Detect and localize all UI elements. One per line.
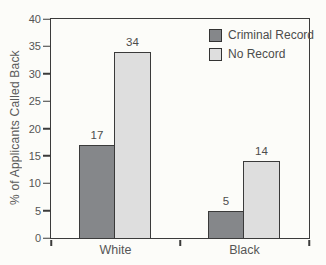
- bar: 34: [114, 52, 151, 238]
- y-tick-label: 35: [15, 39, 41, 53]
- y-axis-tick: [43, 46, 51, 48]
- bar-value-label: 5: [209, 195, 244, 207]
- y-axis-tick: [43, 100, 51, 102]
- bar-value-label: 17: [80, 129, 115, 141]
- x-axis-tick: [308, 240, 310, 246]
- legend-label: No Record: [228, 47, 285, 61]
- bar: 14: [243, 161, 280, 238]
- bar-value-label: 14: [244, 145, 279, 157]
- y-tick-label: 20: [15, 122, 41, 136]
- bar-value-label: 34: [115, 36, 150, 48]
- y-axis-tick: [43, 128, 51, 130]
- x-axis-tick: [50, 240, 52, 246]
- legend-item: No Record: [209, 47, 314, 61]
- y-axis-tick: [43, 155, 51, 157]
- y-axis-tick: [43, 210, 51, 212]
- y-tick-label: 10: [15, 176, 41, 190]
- y-tick-label: 15: [15, 149, 41, 163]
- x-category-label: White: [100, 243, 132, 257]
- legend-item: Criminal Record: [209, 28, 314, 42]
- y-axis-tick: [43, 18, 51, 20]
- y-tick-label: 25: [15, 94, 41, 108]
- bar: 5: [208, 211, 245, 238]
- y-axis-tick: [43, 183, 51, 185]
- legend-swatch: [209, 48, 222, 61]
- x-axis-tick: [179, 240, 181, 246]
- bar-chart-figure: % of Applicants Called Back 051015202530…: [0, 0, 326, 265]
- legend-swatch: [209, 29, 222, 42]
- y-axis-tick: [43, 73, 51, 75]
- y-tick-label: 40: [15, 12, 41, 26]
- x-category-label: Black: [229, 243, 260, 257]
- plot-area: 0510152025303540 WhiteBlack 1734514 Crim…: [50, 18, 310, 239]
- legend: Criminal RecordNo Record: [209, 28, 314, 61]
- y-tick-label: 30: [15, 67, 41, 81]
- y-tick-label: 5: [15, 204, 41, 218]
- legend-label: Criminal Record: [228, 28, 314, 42]
- bar: 17: [79, 145, 116, 238]
- y-tick-label: 0: [15, 231, 41, 245]
